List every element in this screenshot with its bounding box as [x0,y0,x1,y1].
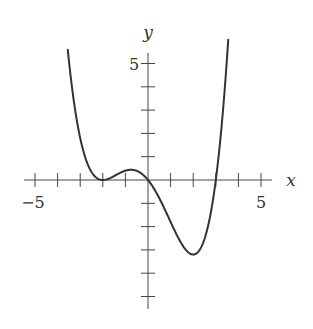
x-tick-label-5: 5 [256,193,266,212]
y-tick-label-5: 5 [129,55,139,74]
x-tick-label-neg5: −5 [21,193,45,212]
function-plot: y x −5 5 5 [0,0,313,329]
y-axis-label: y [142,22,153,42]
x-axis-label: x [286,170,296,190]
